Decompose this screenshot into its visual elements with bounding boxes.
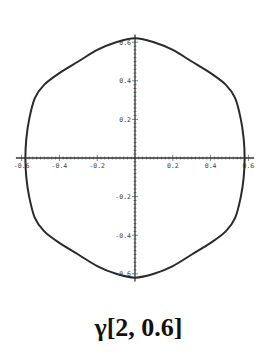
x-tick-label: -0.6 <box>14 162 30 170</box>
x-tick-label: 0.2 <box>167 162 179 170</box>
y-tick-label: 0.4 <box>119 77 131 85</box>
figure-caption: γ[2, 0.6] <box>0 313 277 343</box>
x-tick-label: 0.4 <box>205 162 217 170</box>
x-tick-label: -0.2 <box>89 162 105 170</box>
y-tick-label: -0.4 <box>115 232 131 240</box>
plot-area: -0.6-0.4-0.20.20.40.60.60.40.2-0.2-0.4-0… <box>0 0 277 300</box>
x-tick-label: -0.4 <box>52 162 68 170</box>
y-tick-label: -0.2 <box>115 193 131 201</box>
y-tick-label: 0.2 <box>119 116 131 124</box>
tick-marks <box>22 42 249 274</box>
